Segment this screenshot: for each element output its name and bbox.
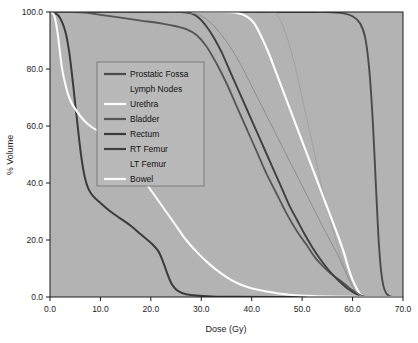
legend-label-prostatic-fossa: Prostatic Fossa: [130, 69, 189, 79]
legend-label-rt-femur: RT Femur: [130, 144, 168, 154]
legend-label-urethra: Urethra: [130, 99, 159, 109]
legend-label-rectum: Rectum: [130, 129, 159, 139]
x-tick-label: 50.0: [294, 304, 311, 314]
y-tick-label: 40.0: [26, 178, 43, 188]
chart-canvas: 0.020.040.060.080.0100.0 0.010.020.030.0…: [0, 0, 418, 343]
chart-legend: Prostatic FossaLymph NodesUrethraBladder…: [97, 62, 204, 186]
legend-label-lymph-nodes: Lymph Nodes: [130, 84, 182, 94]
y-tick-label: 0.0: [31, 292, 43, 302]
y-tick-label: 20.0: [26, 235, 43, 245]
x-tick-label: 30.0: [193, 304, 210, 314]
x-tick-label: 40.0: [243, 304, 260, 314]
legend-label-bowel: Bowel: [130, 174, 153, 184]
x-tick-label: 20.0: [143, 304, 160, 314]
x-tick-label: 0.0: [44, 304, 56, 314]
x-tick-label: 70.0: [395, 304, 412, 314]
x-axis-title: Dose (Gy): [205, 324, 246, 334]
y-tick-label: 100.0: [22, 7, 44, 17]
y-axis-title: % Volume: [5, 135, 15, 176]
dvh-chart-figure: 0.020.040.060.080.0100.0 0.010.020.030.0…: [0, 0, 418, 343]
legend-label-bladder: Bladder: [130, 114, 159, 124]
legend-label-lt-femur: LT Femur: [130, 159, 166, 169]
y-tick-label: 60.0: [26, 121, 43, 131]
y-tick-label: 80.0: [26, 64, 43, 74]
x-tick-label: 10.0: [92, 304, 109, 314]
x-tick-label: 60.0: [344, 304, 361, 314]
